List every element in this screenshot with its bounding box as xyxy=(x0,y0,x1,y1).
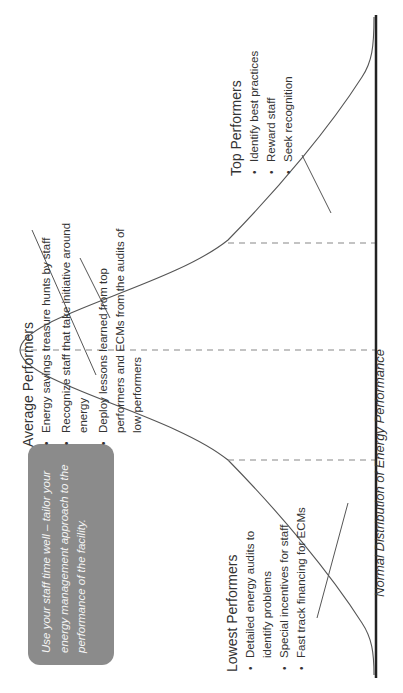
average-performers-title: Average Performers xyxy=(20,217,37,447)
list-item: Special incentives for staff xyxy=(276,492,293,672)
average-performers-group: Average Performers Energy savings treasu… xyxy=(20,217,149,447)
leader-line-lowest xyxy=(317,503,348,618)
lowest-performers-title: Lowest Performers xyxy=(224,492,241,672)
list-item: Fast track financing for ECMs xyxy=(293,492,310,672)
list-item: Reward staff xyxy=(263,16,280,176)
rotated-diagram-canvas: Use your staff time well – tailor your e… xyxy=(0,0,403,693)
staff-time-callout-box: Use your staff time well – tailor your e… xyxy=(28,444,114,665)
top-performers-list: Identify best practices Reward staff See… xyxy=(246,16,297,176)
lowest-performers-list: Detailed energy audits to identify probl… xyxy=(242,492,310,672)
list-item: Detailed energy audits to identify probl… xyxy=(242,492,276,672)
average-performers-list: Energy savings treasure hunts by staff R… xyxy=(38,217,146,447)
callout-text: Use your staff time well – tailor your e… xyxy=(40,464,87,653)
list-item: Recognize staff that take initiative aro… xyxy=(58,217,92,447)
list-item: Identify best practices xyxy=(246,16,263,176)
list-item: Deploy lessons learned from top performe… xyxy=(95,217,146,447)
leader-line-top xyxy=(302,155,331,213)
lowest-performers-group: Lowest Performers Detailed energy audits… xyxy=(224,492,310,672)
list-item: Seek recognition xyxy=(280,16,297,176)
list-item: Energy savings treasure hunts by staff xyxy=(38,217,55,447)
top-performers-title: Top Performers xyxy=(228,16,245,176)
axis-caption: Normal Distribution of Energy Performanc… xyxy=(372,313,387,633)
top-performers-group: Top Performers Identify best practices R… xyxy=(228,16,297,176)
